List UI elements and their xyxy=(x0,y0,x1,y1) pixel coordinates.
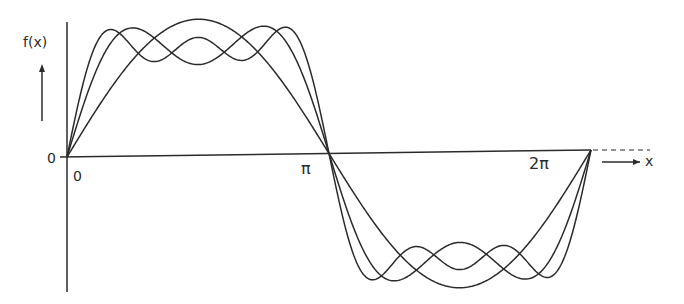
tick-label-pi: π xyxy=(301,159,311,178)
partial-sum-3-terms xyxy=(67,27,591,280)
fourier-diagram: f(x) x 0 0 π 2π xyxy=(0,0,684,304)
x-axis-label: x xyxy=(645,153,653,169)
origin-label-below: 0 xyxy=(73,168,82,184)
x-arrow-icon xyxy=(602,159,640,165)
y-arrow-icon xyxy=(39,64,45,121)
x-axis xyxy=(60,150,591,157)
tick-label-2pi: 2π xyxy=(529,154,549,173)
y-axis-label: f(x) xyxy=(23,34,47,50)
origin-label-left: 0 xyxy=(47,150,56,166)
